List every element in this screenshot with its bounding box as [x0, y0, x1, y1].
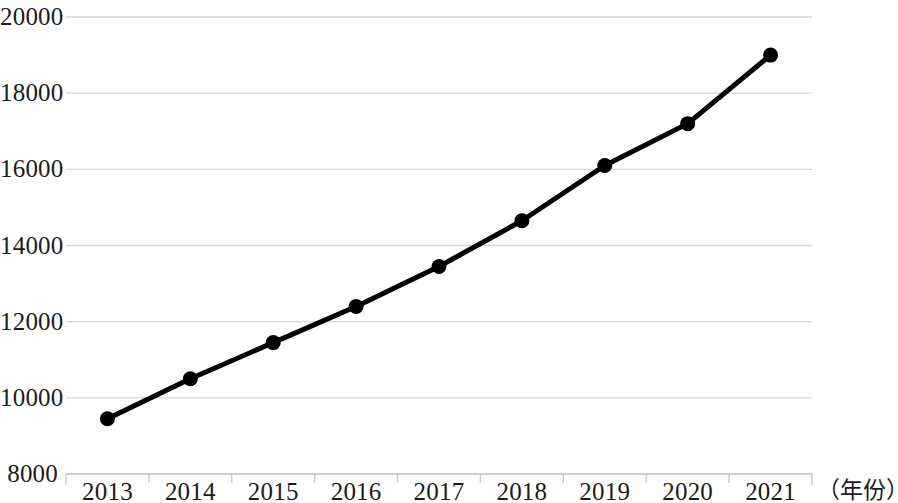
data-point-marker: [349, 299, 364, 314]
data-point-markers: [100, 48, 778, 427]
series-line: [107, 55, 770, 419]
data-point-marker: [432, 259, 447, 274]
data-point-marker: [597, 158, 612, 173]
x-axis-tick-label: 2020: [646, 479, 729, 503]
x-axis-unit-label: （年份）: [817, 478, 898, 503]
y-axis-tick-label: 10000: [0, 385, 58, 410]
data-point-marker: [514, 213, 529, 228]
y-axis-tick-label: 14000: [0, 233, 58, 258]
data-point-marker: [763, 48, 778, 63]
data-point-marker: [183, 371, 198, 386]
x-axis-tick-label: 2021: [729, 479, 812, 503]
y-axis-tick-label: 16000: [0, 156, 58, 181]
y-axis-tick-label: 12000: [0, 309, 58, 334]
x-axis-tick-label: 2014: [149, 479, 232, 503]
y-axis-tick-label: 8000: [0, 461, 58, 486]
x-axis-tick-label: 2017: [398, 479, 481, 503]
data-point-marker: [680, 116, 695, 131]
y-axis-tick-label: 18000: [0, 80, 58, 105]
x-axis-tick-label: 2019: [563, 479, 646, 503]
y-axis-tick-label: 20000: [0, 4, 58, 29]
data-point-marker: [266, 335, 281, 350]
data-point-marker: [100, 411, 115, 426]
x-axis-tick-label: 2013: [66, 479, 149, 503]
data-series-line: [107, 55, 770, 419]
gridlines: [66, 17, 812, 474]
x-axis-tick-label: 2018: [480, 479, 563, 503]
x-axis-tick-label: 2015: [232, 479, 315, 503]
x-axis-tick-label: 2016: [315, 479, 398, 503]
